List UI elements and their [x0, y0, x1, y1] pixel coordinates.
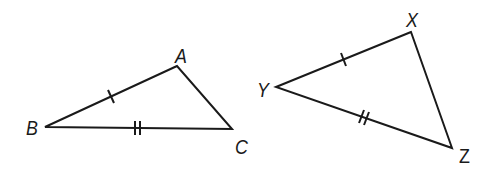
vertex-label-z: Z	[459, 145, 470, 166]
triangle-xyz	[276, 32, 452, 148]
vertex-label-a: A	[175, 45, 187, 66]
congruence-diagram: A B C X Y Z	[0, 0, 496, 170]
vertex-label-x: X	[406, 9, 418, 30]
vertex-label-y: Y	[257, 79, 269, 100]
triangle-abc	[45, 66, 232, 135]
triangle-xyz-outline	[276, 32, 452, 148]
triangles-drawing	[0, 0, 496, 170]
vertex-label-b: B	[26, 117, 38, 138]
vertex-label-c: C	[235, 136, 248, 157]
triangle-abc-outline	[45, 66, 232, 129]
